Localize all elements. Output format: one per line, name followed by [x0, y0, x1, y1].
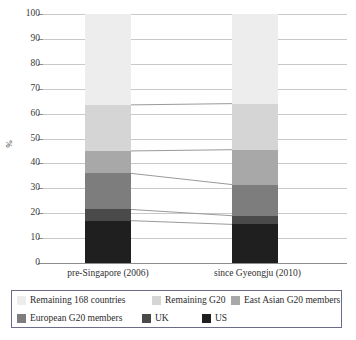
legend-swatch-icon	[142, 314, 151, 323]
bar-0	[85, 0, 131, 292]
legend-item[interactable]: East Asian G20 members	[231, 291, 340, 310]
legend-label: US	[215, 314, 227, 324]
x-axis-label-category-0: pre-Singapore (2006)	[38, 268, 178, 278]
legend-label: Remaining G20	[165, 296, 225, 306]
legend-item[interactable]: Remaining 168 countries	[17, 291, 126, 310]
x-axis-label-category-1: since Gyeongju (2010)	[185, 268, 330, 278]
plot-area: % 0102030405060708090100 pre-Singapore (…	[0, 0, 356, 292]
bar-segment	[85, 173, 131, 209]
bar-segment	[232, 224, 278, 263]
bar-segment	[232, 104, 278, 150]
legend-label: UK	[155, 314, 169, 324]
bars-layer	[0, 0, 356, 292]
bar-segment	[232, 216, 278, 225]
legend-item[interactable]: Remaining G20	[152, 291, 225, 310]
legend-label: East Asian G20 members	[244, 296, 340, 306]
bar-segment	[232, 150, 278, 185]
bar-1	[232, 0, 278, 292]
legend-item[interactable]: US	[202, 309, 227, 328]
legend-row-2: European G20 membersUKUS	[12, 309, 343, 328]
legend-swatch-icon	[17, 296, 26, 305]
bar-segment	[85, 105, 131, 151]
bar-segment	[232, 185, 278, 216]
legend-swatch-icon	[17, 314, 26, 323]
legend-row-1: Remaining 168 countriesRemaining G20East…	[12, 291, 343, 310]
legend-item[interactable]: UK	[142, 309, 169, 328]
chart-legend: Remaining 168 countriesRemaining G20East…	[11, 290, 342, 328]
bar-segment	[85, 221, 131, 263]
legend-swatch-icon	[202, 314, 211, 323]
bar-segment	[85, 209, 131, 220]
legend-label: Remaining 168 countries	[30, 296, 126, 306]
stacked-bar-chart: % 0102030405060708090100 pre-Singapore (…	[0, 0, 356, 340]
legend-swatch-icon	[231, 296, 240, 305]
bar-segment	[85, 151, 131, 173]
bar-segment	[232, 14, 278, 104]
bar-segment	[85, 14, 131, 105]
legend-swatch-icon	[152, 296, 161, 305]
legend-item[interactable]: European G20 members	[17, 309, 122, 328]
legend-label: European G20 members	[30, 314, 122, 324]
